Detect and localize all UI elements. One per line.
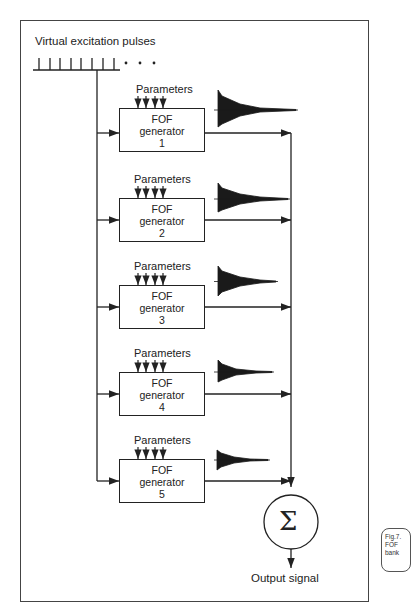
fof-waveform-icon-1 xyxy=(214,90,298,127)
fof-waveform-icon-4 xyxy=(214,360,274,382)
generator-number: 5 xyxy=(120,488,204,500)
generator-number: 3 xyxy=(120,314,204,326)
caption-line2: FOF xyxy=(385,541,407,549)
fof-generator-4: FOF generator 4 xyxy=(119,372,205,416)
fof-generator-2: FOF generator 2 xyxy=(119,198,205,242)
output-label: Output signal xyxy=(251,572,319,584)
parameter-arrows-1 xyxy=(138,96,163,108)
sigma-icon: Σ xyxy=(279,506,297,536)
params-label-4: Parameters xyxy=(134,347,191,359)
generator-number: 1 xyxy=(120,137,204,149)
generator-label-line1: FOF xyxy=(120,290,204,302)
generator-label-line2: generator xyxy=(120,125,204,137)
parameter-arrows-5 xyxy=(138,447,163,459)
fof-waveform-icon-3 xyxy=(214,266,278,296)
fof-waveform-icon-2 xyxy=(214,183,290,212)
caption-line3: bank xyxy=(385,549,407,557)
parameter-arrows-2 xyxy=(138,186,163,198)
params-label-2: Parameters xyxy=(134,173,191,185)
fof-generator-5: FOF generator 5 xyxy=(119,459,205,503)
caption-line1: Fig.7. xyxy=(385,533,407,541)
parameter-arrows-4 xyxy=(138,360,163,372)
generator-label-line2: generator xyxy=(120,215,204,227)
generator-label-line1: FOF xyxy=(120,377,204,389)
generator-label-line1: FOF xyxy=(120,203,204,215)
generator-label-line1: FOF xyxy=(120,464,204,476)
generator-label-line2: generator xyxy=(120,476,204,488)
params-label-3: Parameters xyxy=(134,260,191,272)
fof-waveform-icon-5 xyxy=(214,450,270,470)
params-label-5: Parameters xyxy=(134,434,191,446)
parameter-arrows-3 xyxy=(138,273,163,285)
input-label: Virtual excitation pulses xyxy=(35,35,156,47)
pulse-train-icon xyxy=(33,58,120,70)
generator-number: 2 xyxy=(120,227,204,239)
generator-number: 4 xyxy=(120,401,204,413)
generator-label-line2: generator xyxy=(120,302,204,314)
generator-label-line1: FOF xyxy=(120,113,204,125)
fof-generator-1: FOF generator 1 xyxy=(119,108,205,152)
figure-caption: Fig.7. FOF bank xyxy=(381,528,411,572)
params-label-1: Parameters xyxy=(136,83,193,95)
fof-generator-3: FOF generator 3 xyxy=(119,285,205,329)
generator-label-line2: generator xyxy=(120,389,204,401)
